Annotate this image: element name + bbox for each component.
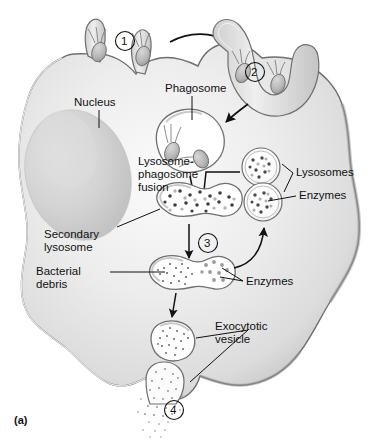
label-enzymes-top: Enzymes bbox=[299, 189, 346, 202]
label-nucleus: Nucleus bbox=[74, 96, 116, 109]
lysosome-upper bbox=[242, 148, 280, 186]
panel-label: (a) bbox=[14, 414, 27, 426]
step-4-number: 4 bbox=[170, 404, 176, 417]
label-lysosomes: Lysosomes bbox=[296, 166, 354, 179]
step-2-number: 2 bbox=[251, 66, 257, 79]
label-phagosome: Phagosome bbox=[165, 82, 226, 95]
phagocytosis-diagram: Nucleus Phagosome Lysosome- phagosome fu… bbox=[0, 0, 383, 441]
step-1-number: 1 bbox=[121, 35, 127, 48]
lysosome-lower bbox=[244, 183, 282, 221]
secondary-lysosome bbox=[157, 183, 242, 217]
step-3-number: 3 bbox=[204, 237, 210, 250]
exocytotic-vesicle bbox=[151, 321, 195, 361]
label-enzymes-mid: Enzymes bbox=[246, 275, 293, 288]
diagram-canvas bbox=[0, 0, 383, 441]
